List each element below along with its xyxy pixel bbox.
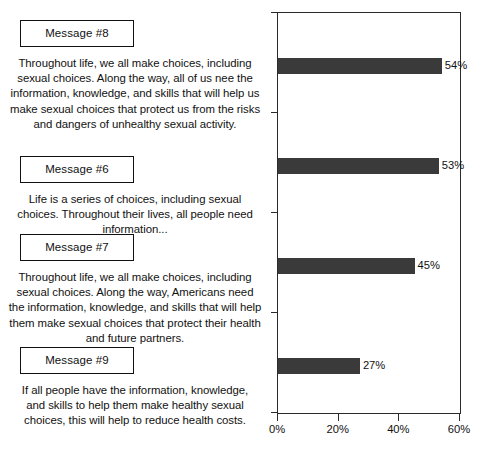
- x-axis-label-40: 40%: [378, 423, 418, 435]
- bar-value-message-7: 45%: [418, 257, 440, 273]
- message-label-box-8[interactable]: Message #8: [20, 20, 134, 47]
- message-group-8: Message #8 Throughout life, we all make …: [0, 20, 270, 132]
- message-body-6: Life is a series of choices, including s…: [14, 192, 256, 238]
- x-axis-label-20: 20%: [318, 423, 358, 435]
- message-label-box-7[interactable]: Message #7: [20, 234, 134, 261]
- x-axis-tick-40: [398, 414, 399, 421]
- plot-area: [277, 12, 461, 414]
- message-label-box-6[interactable]: Message #6: [20, 156, 134, 183]
- message-body-9: If all people have the information, know…: [12, 383, 258, 429]
- bar-message-6[interactable]: [278, 158, 439, 174]
- x-axis-tick-60: [459, 414, 460, 421]
- x-axis-tick-0: [277, 414, 278, 421]
- messages-column: Message #8 Throughout life, we all make …: [0, 0, 270, 458]
- bar-value-message-6: 53%: [442, 157, 464, 173]
- x-axis-label-0: 0%: [257, 423, 297, 435]
- x-axis-tick-20: [338, 414, 339, 421]
- bar-message-9[interactable]: [278, 358, 360, 374]
- x-axis-label-60: 60%: [439, 423, 478, 435]
- message-body-8: Throughout life, we all make choices, in…: [8, 56, 262, 132]
- bar-message-8[interactable]: [278, 58, 442, 74]
- message-group-7: Message #7 Throughout life, we all make …: [0, 234, 270, 346]
- message-label-box-9[interactable]: Message #9: [20, 347, 134, 374]
- message-group-6: Message #6 Life is a series of choices, …: [0, 156, 270, 238]
- bar-message-7[interactable]: [278, 258, 415, 274]
- bar-value-message-8: 54%: [445, 57, 467, 73]
- bar-value-message-9: 27%: [363, 357, 385, 373]
- message-group-9: Message #9 If all people have the inform…: [0, 347, 270, 429]
- message-body-7: Throughout life, we all make choices, in…: [8, 270, 262, 346]
- bar-chart: 54% 53% 45% 27% 0% 20% 40% 60%: [270, 0, 478, 458]
